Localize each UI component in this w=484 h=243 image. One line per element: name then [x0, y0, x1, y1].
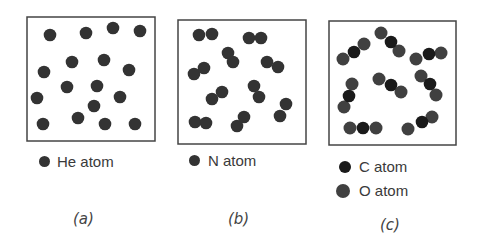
n-atom [206, 28, 219, 41]
n-atom [193, 29, 206, 42]
n-atom [189, 116, 202, 129]
he-atom [61, 81, 74, 94]
panel-c-carbon-dioxide-box [329, 21, 456, 145]
o-atom [346, 78, 359, 91]
c-atom [343, 90, 356, 103]
he-atom-legend-icon [39, 156, 50, 167]
n-atom-legend-label: N atom [208, 153, 256, 169]
he-atom [91, 80, 104, 93]
o-atom [370, 122, 383, 135]
o-atom [402, 123, 415, 136]
he-atom [31, 92, 44, 105]
c-atom [357, 122, 370, 135]
c-atom [424, 78, 437, 91]
o-atom-legend-label: O atom [359, 183, 408, 199]
o-atom [430, 89, 443, 102]
n-atom-legend-icon [189, 155, 200, 166]
n-atom [248, 80, 261, 93]
he-atom [98, 54, 111, 67]
n-atom [280, 98, 293, 111]
panel-b-nitrogen-box [178, 20, 306, 144]
caption-c: (c) [380, 217, 400, 233]
he-atom [44, 29, 57, 42]
o-atom [337, 53, 350, 66]
caption-b: (b) [228, 211, 249, 227]
n-atom [238, 111, 251, 124]
he-atom [88, 100, 101, 113]
he-atom [134, 25, 147, 38]
he-atom [114, 91, 127, 104]
o-atom [344, 122, 357, 135]
n-atom [274, 110, 287, 123]
o-atom [338, 101, 351, 114]
c-atom [416, 116, 429, 129]
o-atom-legend-icon [336, 184, 350, 198]
he-atom [107, 22, 120, 35]
n-atom [261, 56, 274, 69]
o-atom [435, 47, 448, 60]
o-atom [375, 27, 388, 40]
n-atom [272, 61, 285, 74]
n-atom [216, 86, 229, 99]
c-atom [385, 36, 398, 49]
panel-a-helium-box [27, 17, 155, 141]
o-atom [373, 73, 386, 86]
c-atom [348, 46, 361, 59]
he-atom [123, 64, 136, 77]
caption-a: (a) [73, 211, 94, 227]
c-atom-legend-label: C atom [359, 159, 407, 175]
c-atom [423, 48, 436, 61]
he-atom-legend-label: He atom [57, 154, 114, 170]
c-atom-legend-icon [339, 161, 351, 173]
he-atom [38, 66, 51, 79]
he-atom [66, 56, 79, 69]
o-atom [410, 53, 423, 66]
n-atom [253, 91, 266, 104]
n-atom [255, 32, 268, 45]
c-atom [385, 79, 398, 92]
n-atom [227, 56, 240, 69]
o-atom [358, 38, 371, 51]
he-atom [80, 27, 93, 40]
gas-particles-diagram [0, 0, 484, 243]
he-atom [99, 118, 112, 131]
he-atom [72, 112, 85, 125]
n-atom [200, 117, 213, 130]
he-atom [129, 118, 142, 131]
he-atom [37, 118, 50, 131]
n-atom [243, 32, 256, 45]
n-atom [198, 62, 211, 75]
